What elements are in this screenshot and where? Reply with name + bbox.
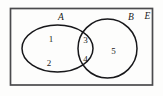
region-label-3: 3 xyxy=(83,35,88,45)
set-b-label: B xyxy=(128,12,134,22)
region-label-2: 2 xyxy=(47,58,52,68)
set-a-label: A xyxy=(57,12,64,22)
region-label-1: 1 xyxy=(49,34,54,44)
venn-diagram-canvas: A B E 1 2 3 4 5 xyxy=(0,0,163,96)
universal-set-label: E xyxy=(144,11,151,21)
region-label-5: 5 xyxy=(111,46,116,56)
venn-diagram-figure: A B E 1 2 3 4 5 xyxy=(0,0,163,96)
region-label-4: 4 xyxy=(83,54,88,64)
